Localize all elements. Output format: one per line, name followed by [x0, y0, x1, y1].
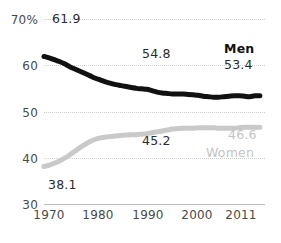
- x-axis-tick-2000: 2000: [181, 208, 212, 222]
- series-label-women: Women: [206, 145, 254, 160]
- x-axis-tick-2011: 2011: [225, 208, 256, 222]
- x-axis-tick-1990: 1990: [132, 208, 163, 222]
- y-axis-tick-70: 70%: [11, 13, 38, 27]
- line-chart: 70% 60 50 40 30 61.9 54.8 Men 53.4 38.1 …: [0, 0, 281, 243]
- plot-area: 70% 60 50 40 30 61.9 54.8 Men 53.4 38.1 …: [44, 19, 265, 204]
- y-axis-tick-60: 60: [22, 59, 38, 73]
- y-axis-tick-50: 50: [22, 106, 38, 120]
- annotation-women-mid: 45.2: [142, 133, 171, 148]
- annotation-men-end: 53.4: [224, 57, 253, 72]
- gridline-30-baseline: 30: [44, 204, 265, 205]
- series-label-men: Men: [224, 41, 254, 56]
- annotation-men-start: 61.9: [52, 11, 81, 26]
- annotation-women-end: 46.6: [228, 127, 257, 142]
- annotation-men-mid: 54.8: [142, 46, 171, 61]
- annotation-women-start: 38.1: [48, 177, 77, 192]
- x-axis-tick-1970: 1970: [33, 208, 64, 222]
- y-axis-tick-40: 40: [22, 152, 38, 166]
- x-axis-tick-1980: 1980: [82, 208, 113, 222]
